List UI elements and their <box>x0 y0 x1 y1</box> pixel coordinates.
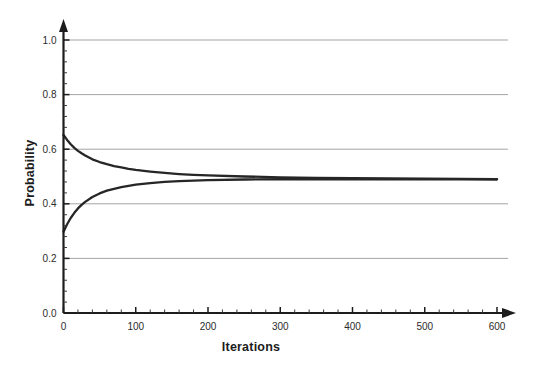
x-tick-label-100: 100 <box>127 321 144 332</box>
y-tick-label-0.2: 0.2 <box>43 253 57 264</box>
y-tick-label-0.8: 0.8 <box>43 89 57 100</box>
x-tick-label-200: 200 <box>200 321 217 332</box>
y-tick-label-0.6: 0.6 <box>43 144 57 155</box>
y-axis-title: Probability <box>23 140 37 207</box>
x-tick-label-600: 600 <box>489 321 506 332</box>
probability-convergence-chart: 0100200300400500600 0.00.20.40.60.81.0 I… <box>0 0 535 368</box>
y-tick-label-0: 0.0 <box>43 308 57 319</box>
x-axis-title: Iterations <box>222 340 280 354</box>
x-tick-label-300: 300 <box>272 321 289 332</box>
x-tick-label-400: 400 <box>344 321 361 332</box>
y-tick-label-1: 1.0 <box>43 35 57 46</box>
x-tick-label-0: 0 <box>61 321 67 332</box>
x-tick-label-500: 500 <box>416 321 433 332</box>
y-tick-label-0.4: 0.4 <box>43 198 57 209</box>
